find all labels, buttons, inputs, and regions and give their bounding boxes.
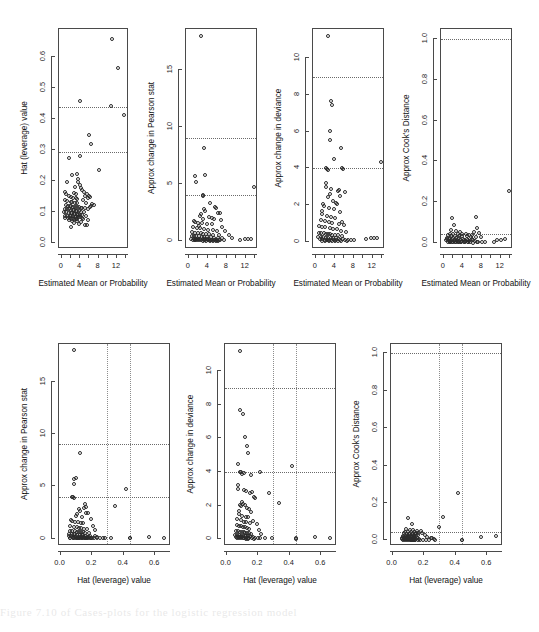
data-point	[456, 491, 460, 495]
panel-cook-vs-hat-y-tick	[383, 465, 387, 466]
diagnostics-figure: 04812Estimated Mean or Probability0.00.1…	[0, 0, 539, 632]
panel-cook-vs-hat-x-axis	[390, 551, 502, 552]
panel-cook-vs-hat-x-tick	[455, 551, 456, 555]
data-point	[437, 525, 441, 529]
panel-cook-vs-hat-y-tick	[383, 539, 387, 540]
panel-cook-vs-hat-horizontal-refline-1	[391, 353, 501, 354]
panel-cook-vs-hat-y-tick-label: 0.8	[370, 384, 379, 395]
panel-cook-vs-hat-y-tick-label: 0.6	[370, 422, 379, 433]
panel-cook-vs-hat-y-tick	[383, 390, 387, 391]
data-point	[479, 535, 483, 539]
panel-cook-vs-hat-x-tick-label: 0.0	[386, 558, 397, 567]
data-point	[410, 522, 414, 526]
data-point	[413, 538, 417, 542]
panel-cook-vs-hat-x-axis-title: Hat (leverage) value	[409, 576, 483, 585]
panel-cook-vs-hat-x-tick	[423, 551, 424, 555]
panel-cook-vs-hat-x-tick-label: 0.4	[449, 558, 460, 567]
panel-cook-vs-hat-vertical-refline-1	[462, 344, 463, 544]
panel-cook-vs-hat-y-tick	[383, 502, 387, 503]
panel-cook-vs-hat-x-tick	[486, 551, 487, 555]
data-point	[460, 538, 464, 542]
panel-cook-vs-hat-y-tick-label: 0.0	[370, 534, 379, 545]
scanner-bleed-artifact: Figure 7.10 of Cases-plots for the logis…	[0, 606, 539, 632]
panel-cook-vs-hat-y-tick	[383, 427, 387, 428]
panel-cook-vs-hat-x-tick-label: 0.6	[481, 558, 492, 567]
panel-cook-vs-hat-y-tick-label: 0.4	[370, 459, 379, 470]
panel-cook-vs-hat-y-axis-title: Approx Cook's Distance	[352, 400, 361, 487]
panel-cook-vs-hat-y-tick	[383, 352, 387, 353]
panel-cook-vs-hat-y-tick-label: 0.2	[370, 497, 379, 508]
panel-cook-vs-hat-y-tick-label: 1.0	[370, 347, 379, 358]
data-point	[418, 538, 422, 542]
data-point	[441, 515, 445, 519]
panel-cook-vs-hat-y-axis	[383, 352, 384, 539]
panel-cook-vs-hat: 0.00.20.40.6Hat (leverage) value0.00.20.…	[0, 0, 539, 632]
data-point	[406, 516, 410, 520]
panel-cook-vs-hat-x-tick-label: 0.2	[418, 558, 429, 567]
data-point	[433, 538, 437, 542]
panel-cook-vs-hat-plot-area	[390, 343, 502, 545]
panel-cook-vs-hat-x-tick	[392, 551, 393, 555]
data-point	[494, 534, 498, 538]
panel-cook-vs-hat-vertical-refline-0	[439, 344, 440, 544]
